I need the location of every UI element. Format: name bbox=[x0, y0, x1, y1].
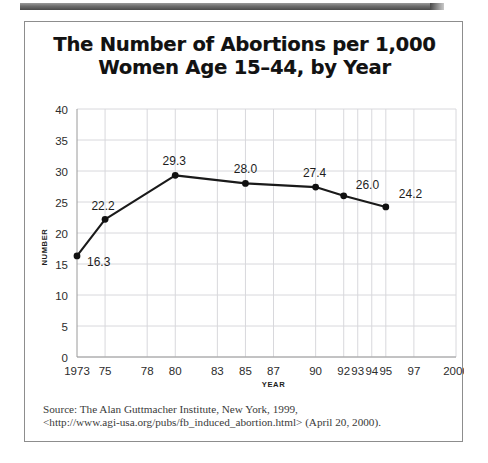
data-point-marker bbox=[242, 180, 249, 187]
source-note: Source: The Alan Guttmacher Institute, N… bbox=[43, 403, 453, 430]
data-point-marker bbox=[382, 204, 389, 211]
data-point-label: 27.4 bbox=[303, 166, 327, 180]
x-axis-tick-label: 1973 bbox=[64, 365, 90, 377]
y-axis-tick-label: 20 bbox=[55, 228, 68, 240]
y-axis-title: NUMBER bbox=[40, 229, 49, 266]
y-axis-tick-label: 5 bbox=[62, 321, 68, 333]
data-point-marker bbox=[312, 184, 319, 191]
x-axis-tick-label: 93 bbox=[351, 365, 364, 377]
x-axis-tick-label: 90 bbox=[309, 365, 322, 377]
y-axis-tick-label: 0 bbox=[62, 352, 68, 364]
x-axis-tick-label: 85 bbox=[239, 365, 252, 377]
line-chart-svg: 0510152025303540197375788083858790929394… bbox=[25, 22, 464, 443]
x-axis-tick-label: 97 bbox=[407, 365, 420, 377]
scan-shadow-bar-tail bbox=[430, 3, 444, 10]
data-point-label: 28.0 bbox=[234, 162, 258, 176]
x-axis-tick-label: 2000 bbox=[443, 365, 464, 377]
x-axis-tick-label: 87 bbox=[267, 365, 280, 377]
y-axis-tick-label: 40 bbox=[55, 104, 68, 116]
data-point-marker bbox=[172, 172, 179, 179]
x-axis-tick-label: 78 bbox=[141, 365, 154, 377]
source-line-2: <http://www.agi-usa.org/pubs/fb_induced_… bbox=[43, 416, 453, 429]
plot-area: 0510152025303540197375788083858790929394… bbox=[25, 22, 464, 443]
y-axis-tick-label: 35 bbox=[55, 135, 68, 147]
x-axis-tick-label: 75 bbox=[99, 365, 112, 377]
y-axis-tick-label: 15 bbox=[55, 259, 68, 271]
source-line-1: Source: The Alan Guttmacher Institute, N… bbox=[43, 403, 453, 416]
x-axis-tick-label: 94 bbox=[365, 365, 378, 377]
data-point-label: 24.2 bbox=[399, 187, 423, 201]
data-line-series bbox=[77, 175, 386, 256]
x-axis-tick-label: 92 bbox=[337, 365, 350, 377]
data-point-label: 16.3 bbox=[87, 255, 111, 269]
y-axis-tick-label: 30 bbox=[55, 166, 68, 178]
data-point-label: 26.0 bbox=[356, 178, 380, 192]
x-axis-tick-label: 95 bbox=[379, 365, 392, 377]
data-point-marker bbox=[74, 253, 81, 260]
data-point-marker bbox=[102, 216, 109, 223]
x-axis-tick-label: 83 bbox=[211, 365, 224, 377]
scan-shadow-bar bbox=[20, 3, 430, 10]
x-axis-tick-label: 80 bbox=[169, 365, 182, 377]
data-point-label: 22.2 bbox=[91, 199, 115, 213]
figure-frame: The Number of Abortions per 1,000 Women … bbox=[24, 21, 463, 442]
y-axis-tick-label: 10 bbox=[55, 290, 68, 302]
x-axis-title: YEAR bbox=[262, 380, 286, 389]
data-point-marker bbox=[340, 192, 347, 199]
y-axis-tick-label: 25 bbox=[55, 197, 68, 209]
data-point-label: 29.3 bbox=[163, 154, 187, 168]
